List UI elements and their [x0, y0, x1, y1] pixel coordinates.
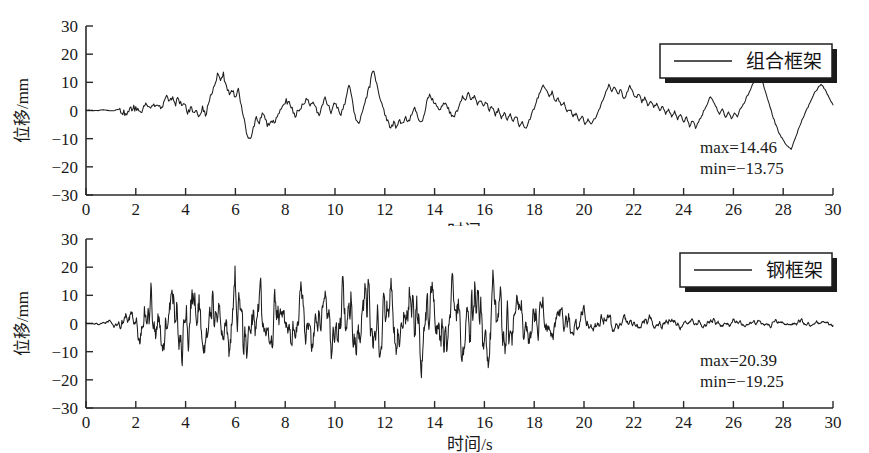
y-tick-label: 20 — [61, 258, 78, 277]
x-tick-label: 10 — [327, 413, 344, 432]
x-tick-label: 30 — [825, 413, 842, 432]
y-axis-title: 位移/mm — [13, 291, 32, 356]
x-tick-label: 28 — [775, 413, 792, 432]
max-value-annotation: max=20.39 — [700, 351, 777, 370]
x-tick-label: 2 — [132, 413, 141, 432]
chart-panel-top: 3020100−10−20−30024681012141618202224262… — [0, 0, 869, 226]
legend-label: 钢框架 — [766, 260, 823, 281]
x-tick-label: 4 — [181, 413, 190, 432]
x-tick-label: 8 — [281, 413, 290, 432]
x-tick-label: 20 — [576, 413, 593, 432]
legend-label: 组合框架 — [746, 51, 822, 72]
chart-svg-top: 3020100−10−20−30024681012141618202224262… — [0, 0, 869, 226]
chart-svg-bottom: 3020100−10−20−30024681012141618202224262… — [0, 213, 869, 453]
y-tick-label: −10 — [51, 343, 78, 362]
y-axis-title: 位移/mm — [13, 78, 32, 143]
y-tick-label: −30 — [51, 186, 78, 205]
x-axis-title: 时间/s — [447, 435, 492, 453]
y-tick-label: 20 — [61, 45, 78, 64]
y-tick-label: −20 — [51, 371, 78, 390]
y-tick-label: 0 — [70, 102, 79, 121]
figure-container: 3020100−10−20−30024681012141618202224262… — [0, 0, 869, 453]
chart-panel-bottom: 3020100−10−20−30024681012141618202224262… — [0, 213, 869, 439]
x-tick-label: 18 — [526, 413, 543, 432]
y-tick-label: −20 — [51, 158, 78, 177]
x-tick-label: 22 — [625, 413, 642, 432]
x-tick-label: 6 — [231, 413, 240, 432]
x-tick-label: 12 — [376, 413, 393, 432]
x-tick-label: 14 — [426, 413, 444, 432]
y-tick-label: 10 — [61, 73, 78, 92]
min-value-annotation: min=−19.25 — [700, 372, 784, 391]
x-tick-label: 24 — [675, 413, 693, 432]
y-tick-label: 30 — [61, 230, 78, 249]
y-tick-label: 0 — [70, 315, 79, 334]
min-value-annotation: min=−13.75 — [700, 159, 784, 178]
y-tick-label: 10 — [61, 286, 78, 305]
x-tick-label: 16 — [476, 413, 493, 432]
x-tick-label: 26 — [725, 413, 742, 432]
y-tick-label: −10 — [51, 130, 78, 149]
y-tick-label: −30 — [51, 399, 78, 418]
x-tick-label: 0 — [82, 413, 91, 432]
max-value-annotation: max=14.46 — [700, 138, 777, 157]
y-tick-label: 30 — [61, 17, 78, 36]
